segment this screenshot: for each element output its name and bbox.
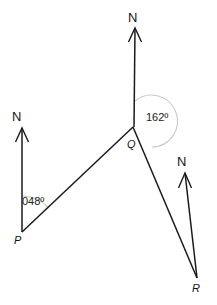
angle-label-at-q: 162º	[146, 112, 168, 123]
north-label-at-p: N	[12, 110, 21, 123]
north-label-at-r: N	[177, 155, 186, 168]
point-label-r: R	[192, 283, 200, 294]
north-line-at-q	[134, 28, 135, 127]
point-label-q: Q	[127, 139, 136, 150]
segment-qr	[133, 127, 197, 278]
bearing-diagram: N N N P Q R 048º 162º	[0, 0, 217, 305]
angle-label-at-p: 048º	[22, 196, 44, 207]
segment-pq	[22, 127, 133, 232]
point-label-p: P	[14, 235, 21, 246]
north-label-at-q: N	[128, 11, 137, 24]
diagram-canvas	[0, 0, 217, 305]
